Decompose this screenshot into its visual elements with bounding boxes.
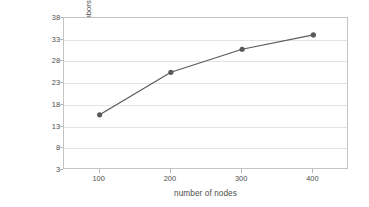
series-polyline — [100, 35, 314, 115]
chart-figure: Percent of nodes which have useful neigh… — [0, 0, 369, 207]
data-series-line — [64, 18, 348, 169]
x-tick-label: 100 — [92, 174, 104, 183]
x-tick-mark — [99, 169, 100, 173]
x-axis-title: number of nodes — [63, 189, 348, 198]
x-tick-label: 300 — [235, 174, 247, 183]
series-markers — [97, 32, 316, 117]
y-axis-tick-labels: 38131823283338 — [36, 17, 60, 169]
data-point-marker — [311, 32, 316, 37]
data-point-marker — [240, 47, 245, 52]
plot-area — [63, 17, 348, 169]
x-tick-mark — [170, 169, 171, 173]
x-tick-label: 200 — [164, 174, 176, 183]
x-tick-mark — [241, 169, 242, 173]
data-point-marker — [97, 112, 102, 117]
data-point-marker — [168, 70, 173, 75]
x-axis-tick-marks — [63, 169, 348, 173]
x-tick-label: 400 — [306, 174, 318, 183]
x-tick-mark — [312, 169, 313, 173]
x-axis-tick-labels: 100200300400 — [63, 174, 348, 186]
